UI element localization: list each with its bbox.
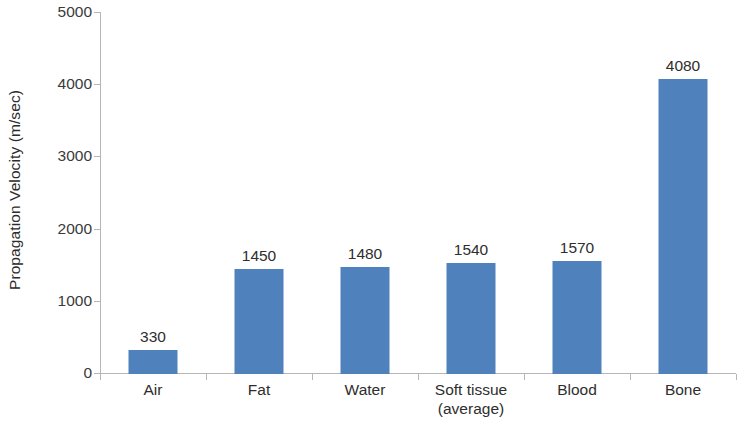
- x-axis-category-label: Blood: [524, 380, 630, 399]
- bar[interactable]: [129, 350, 178, 374]
- bar-group: 1480: [312, 12, 418, 374]
- x-axis-category-label: Water: [312, 380, 418, 399]
- bar-value-label: 1570: [560, 239, 594, 257]
- y-axis-tick-labels: 010002000300040005000: [34, 0, 92, 422]
- y-axis-tick-label: 2000: [36, 220, 92, 238]
- x-axis-category-label-line: Air: [144, 381, 163, 398]
- y-axis-title-text: Propagation Velocity (m/sec): [6, 90, 24, 290]
- x-axis-tick-mark: [206, 374, 207, 380]
- y-axis-tick-label: 3000: [36, 147, 92, 165]
- x-axis-category-label-line: (average): [418, 399, 524, 418]
- y-axis-tick-mark: [94, 84, 100, 85]
- x-axis-tick-mark: [418, 374, 419, 380]
- y-axis-title: Propagation Velocity (m/sec): [0, 0, 30, 380]
- bar-group: 4080: [630, 12, 736, 374]
- bar-value-label: 330: [140, 328, 166, 346]
- x-axis-category-label-line: Soft tissue: [435, 381, 507, 398]
- bar[interactable]: [235, 269, 284, 374]
- bar-chart: Propagation Velocity (m/sec) 01000200030…: [0, 0, 740, 422]
- x-axis-category-label-line: Fat: [248, 381, 270, 398]
- y-axis-tick-mark: [94, 12, 100, 13]
- x-axis-tick-mark: [736, 374, 737, 380]
- y-axis-tick-label: 1000: [36, 292, 92, 310]
- x-axis-category-label-line: Blood: [557, 381, 597, 398]
- y-axis-tick-mark: [94, 301, 100, 302]
- bar[interactable]: [659, 79, 708, 374]
- x-axis-tick-mark: [524, 374, 525, 380]
- bar-value-label: 1480: [348, 245, 382, 263]
- x-axis-tick-mark: [312, 374, 313, 380]
- bar-group: 330: [100, 12, 206, 374]
- x-axis-category-label: Bone: [630, 380, 736, 399]
- y-axis-tick-label: 5000: [36, 3, 92, 21]
- plot-area: 33014501480154015704080: [100, 12, 736, 374]
- y-axis-tick-label: 0: [36, 364, 92, 382]
- x-axis-category-label: Fat: [206, 380, 312, 399]
- x-axis-category-labels: AirFatWaterSoft tissue(average)BloodBone: [100, 380, 736, 422]
- x-axis-category-label: Air: [100, 380, 206, 399]
- bar[interactable]: [553, 261, 602, 374]
- y-axis-tick-label: 4000: [36, 75, 92, 93]
- x-axis-tick-mark: [630, 374, 631, 380]
- bar-group: 1540: [418, 12, 524, 374]
- bar-value-label: 1450: [242, 247, 276, 265]
- x-axis-category-label-line: Water: [345, 381, 386, 398]
- y-axis-tick-mark: [94, 156, 100, 157]
- bar-value-label: 4080: [666, 57, 700, 75]
- bar-value-label: 1540: [454, 241, 488, 259]
- bar[interactable]: [447, 263, 496, 374]
- bar[interactable]: [341, 267, 390, 374]
- x-axis-tick-mark: [100, 374, 101, 380]
- bar-group: 1450: [206, 12, 312, 374]
- y-axis-tick-mark: [94, 229, 100, 230]
- x-axis-category-label-line: Bone: [665, 381, 701, 398]
- bar-group: 1570: [524, 12, 630, 374]
- x-axis-category-label: Soft tissue(average): [418, 380, 524, 418]
